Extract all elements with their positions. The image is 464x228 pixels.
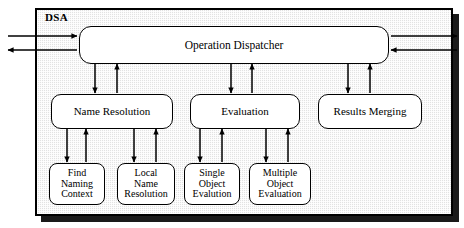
node-results-merging[interactable]: Results Merging: [318, 94, 422, 129]
node-single-object-evaluation-label: Single Object Evalution: [193, 168, 232, 200]
node-evaluation-label: Evaluation: [221, 106, 269, 118]
node-operation-dispatcher-label: Operation Dispatcher: [185, 39, 284, 51]
node-find-naming-context-label: Find Naming Context: [61, 168, 93, 200]
node-multiple-object-evaluation-label: Multiple Object Evaluation: [258, 168, 301, 200]
node-local-name-resolution[interactable]: Local Name Resolution: [117, 163, 175, 205]
node-results-merging-label: Results Merging: [334, 106, 407, 118]
diagram-canvas: DSA Operation Dispatcher Name Resolution…: [0, 0, 464, 228]
node-multiple-object-evaluation[interactable]: Multiple Object Evaluation: [249, 163, 311, 205]
dsa-frame-label: DSA: [45, 12, 68, 23]
node-find-naming-context[interactable]: Find Naming Context: [49, 163, 105, 205]
node-local-name-resolution-label: Local Name Resolution: [124, 168, 167, 200]
node-evaluation[interactable]: Evaluation: [190, 94, 300, 129]
node-operation-dispatcher[interactable]: Operation Dispatcher: [79, 26, 389, 64]
node-name-resolution-label: Name Resolution: [74, 106, 151, 118]
node-single-object-evaluation[interactable]: Single Object Evalution: [184, 163, 240, 205]
node-name-resolution[interactable]: Name Resolution: [51, 94, 173, 129]
